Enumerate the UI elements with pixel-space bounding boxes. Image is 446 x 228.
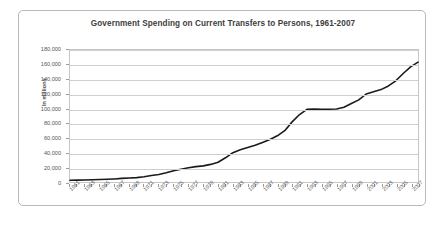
gridline [70,139,418,140]
gridline [70,110,418,111]
gridline [70,154,418,155]
data-line-series [70,50,418,182]
y-axis-tick-label: 80,000 [44,120,61,126]
plot-area [69,49,419,183]
gridline [70,80,418,81]
x-axis-tick-label: 1971 [142,188,146,192]
x-axis-tick-label: 2007 [411,188,415,192]
y-axis-tick-label: 100,000 [41,106,61,112]
x-axis-tick-label: 1981 [217,188,221,192]
x-axis-tick-label: 1991 [291,188,295,192]
y-axis-labels: 180,000160,000140,000120,000100,00080,00… [19,49,65,183]
x-axis-tick-label: 1993 [306,188,310,192]
x-axis-tick-label: 1965 [98,188,102,192]
x-axis-tick-label: 1999 [351,188,355,192]
gridline [70,65,418,66]
x-axis-tick-label: 2005 [396,188,400,192]
x-axis-labels: 1961196319651967196919711973197519771979… [69,184,419,214]
x-axis-tick-label: 1963 [83,188,87,192]
x-axis-tick-label: 1967 [113,188,117,192]
chart-container: Government Spending on Current Transfers… [18,10,426,206]
gridline [70,124,418,125]
y-axis-tick-label: 140,000 [41,76,61,82]
y-axis-tick-label: 60,000 [44,135,61,141]
gridline [70,95,418,96]
y-axis-tick-label: 180,000 [41,46,61,52]
x-axis-tick-label: 1989 [277,188,281,192]
gridline [70,169,418,170]
x-axis-tick-label: 1975 [172,188,176,192]
chart-title: Government Spending on Current Transfers… [19,19,427,28]
x-axis-tick-label: 1985 [247,188,251,192]
x-axis-tick-label: 1979 [202,188,206,192]
x-axis-tick-label: 1973 [157,188,161,192]
x-axis-tick-label: 1995 [321,188,325,192]
y-axis-tick-label: 160,000 [41,61,61,67]
y-axis-tick-label: 20,000 [44,165,61,171]
x-axis-tick-label: 2001 [366,188,370,192]
x-axis-tick-label: 1983 [232,188,236,192]
x-axis-tick-label: 1961 [68,188,72,192]
gridline [70,50,418,51]
y-axis-tick-label: 120,000 [41,91,61,97]
x-axis-tick-label: 1987 [262,188,266,192]
y-axis-tick-label: 40,000 [44,150,61,156]
x-axis-tick-label: 1969 [128,188,132,192]
y-axis-tick-label: 0 [58,180,61,186]
x-axis-tick-label: 1977 [187,188,191,192]
x-axis-tick-label: 1997 [336,188,340,192]
x-axis-tick-label: 2003 [381,188,385,192]
